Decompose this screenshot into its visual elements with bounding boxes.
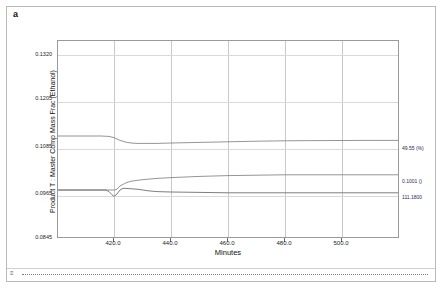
series-annotation-1: 0.1001 () (402, 178, 422, 184)
y-tick-label-3: 0.1205 (12, 95, 52, 101)
x-axis-title: Minutes (57, 248, 399, 257)
y-tick-label-4: 0.1320 (12, 51, 52, 57)
y-tick-label-1: 0.0965 (12, 190, 52, 196)
y-axis-title: Product T : Master Comp Mass Frac (Ethan… (49, 42, 56, 242)
plot-area (57, 40, 399, 238)
bottom-left-mark: ≡ (10, 270, 14, 276)
series-line-49-55 (58, 136, 398, 143)
series-annotation-0: 49.55 (%) (402, 145, 424, 151)
y-tick-label-2: 0.1085 (12, 143, 52, 149)
series-line-0-1001 (58, 175, 398, 190)
bottom-dotted-rule (22, 274, 428, 275)
figure-page: a Product T : Master Comp Mass Frac (Eth… (0, 0, 443, 289)
y-axis-title-wrap: Product T : Master Comp Mass Frac (Ethan… (22, 40, 36, 238)
x-tick-label-0: 420.0 (93, 240, 133, 247)
series-line-111-1800 (58, 188, 398, 196)
panel-letter-a: a (13, 9, 18, 19)
x-tick-label-2: 460.0 (207, 240, 247, 247)
plot-curves (58, 41, 398, 237)
x-tick-label-3: 480.0 (264, 240, 304, 247)
y-tick-label-0: 0.0845 (12, 234, 52, 240)
series-annotation-2: 111.1800 (402, 194, 422, 200)
x-tick-label-1: 440.0 (150, 240, 190, 247)
x-tick-label-4: 500.0 (321, 240, 361, 247)
